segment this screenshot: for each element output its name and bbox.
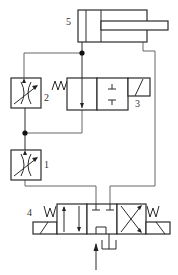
piston-rod <box>101 21 168 30</box>
throttle-valve-1: 1 <box>11 150 49 180</box>
solenoid-left-icon <box>33 222 57 234</box>
spring-right-icon <box>147 206 159 217</box>
label-5: 5 <box>66 16 71 27</box>
label-1: 1 <box>44 159 49 170</box>
solenoid-right-icon <box>146 222 170 234</box>
label-3: 3 <box>135 98 140 109</box>
throttle-valve-2: 2 <box>11 78 49 108</box>
spring-icon <box>52 81 67 90</box>
spring-left-icon <box>44 206 56 217</box>
label-2: 2 <box>44 92 49 103</box>
cylinder-5: 5 <box>66 10 168 42</box>
junction-dot-lower <box>22 130 27 135</box>
label-4: 4 <box>27 207 32 218</box>
directional-valve-4: 4 <box>27 204 170 234</box>
directional-valve-3: 3 <box>52 78 150 110</box>
pipelines <box>24 42 155 270</box>
junction-dot-upper <box>79 50 84 55</box>
pressure-inlet-arrow-icon <box>94 243 99 251</box>
hydraulic-circuit-diagram: 5 2 1 <box>0 0 178 275</box>
